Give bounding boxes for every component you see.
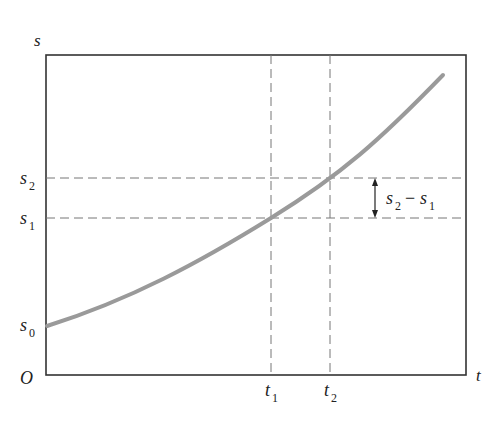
- svg-text:s: s: [386, 188, 393, 208]
- svg-text:2: 2: [331, 391, 337, 405]
- svg-text:s: s: [20, 168, 27, 188]
- svg-text:0: 0: [29, 326, 35, 340]
- x-axis-label: t: [476, 366, 482, 385]
- position-time-graph: s t O s 2 s 1 s 0 t 1 t 2 s 2 − s 1: [0, 0, 498, 423]
- svg-text:1: 1: [429, 199, 435, 213]
- svg-text:−: −: [405, 188, 415, 208]
- svg-text:1: 1: [272, 391, 278, 405]
- origin-label: O: [20, 368, 33, 388]
- svg-text:t: t: [324, 380, 330, 400]
- svg-text:2: 2: [29, 179, 35, 193]
- svg-text:s: s: [20, 208, 27, 228]
- svg-text:t: t: [265, 380, 271, 400]
- y-tick-s2: s 2: [20, 168, 35, 193]
- y-tick-s0: s 0: [20, 315, 35, 340]
- x-tick-t2: t 2: [324, 380, 337, 405]
- arrowhead-up-icon: [372, 178, 378, 186]
- position-curve: [47, 75, 443, 326]
- svg-text:2: 2: [395, 199, 401, 213]
- y-axis-label: s: [34, 31, 41, 50]
- x-tick-t1: t 1: [265, 380, 278, 405]
- displacement-arrow: [372, 178, 378, 218]
- arrowhead-down-icon: [372, 210, 378, 218]
- dashed-guides: [46, 55, 466, 375]
- svg-text:s: s: [20, 315, 27, 335]
- plot-frame: [46, 55, 466, 375]
- displacement-label: s 2 − s 1: [386, 188, 435, 213]
- y-tick-s1: s 1: [20, 208, 35, 233]
- svg-text:s: s: [420, 188, 427, 208]
- svg-text:1: 1: [29, 219, 35, 233]
